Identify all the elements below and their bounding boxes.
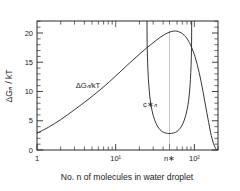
annotation-free-energy: ΔGₙ/kT (76, 81, 101, 90)
x-axis-label: No. n of molecules in water droplet (61, 172, 194, 182)
figure-container: 1 10¹ n∗ 10² 0 5 10 15 20 No. n of molec… (0, 0, 240, 191)
right-axis-minor-ticks (214, 21, 218, 144)
y-tick-label-10: 10 (25, 87, 33, 96)
plot-frame (37, 21, 218, 150)
y-tick-label-0: 0 (29, 146, 33, 155)
x-tick-label-100: 10² (189, 154, 200, 163)
x-axis-top-ticks (61, 21, 195, 27)
y-axis-minor-ticks (37, 21, 41, 144)
y-tick-label-5: 5 (29, 116, 33, 125)
x-tick-label-1: 1 (35, 154, 39, 163)
y-axis-label: ΔGₙ / kT (4, 69, 14, 103)
scientific-plot: 1 10¹ n∗ 10² 0 5 10 15 20 No. n of molec… (0, 0, 240, 191)
x-tick-label-nstar: n∗ (164, 154, 175, 163)
axes-box (37, 21, 218, 150)
x-tick-label-10: 10¹ (110, 154, 121, 163)
y-tick-label-20: 20 (25, 29, 33, 38)
y-tick-label-15: 15 (25, 58, 33, 67)
annotation-concentration: c∗ₙ (143, 100, 157, 109)
